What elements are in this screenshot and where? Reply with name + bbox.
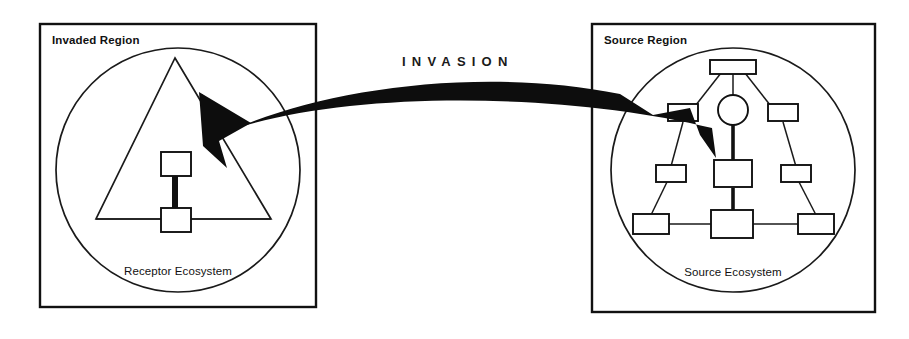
invasion-caption: INVASION — [402, 54, 513, 69]
source-node-bottom-center — [711, 210, 753, 238]
source-node-mid-left — [656, 165, 686, 182]
invaded-region-panel: Invaded Region Receptor Ecosystem — [40, 24, 316, 307]
source-node-upper-right — [768, 104, 798, 121]
receptor-node-lower — [161, 208, 191, 232]
source-ecosystem-label: Source Ecosystem — [684, 266, 781, 278]
figure-canvas: Invaded Region Receptor Ecosystem Source… — [0, 0, 909, 339]
source-node-bottom-left — [633, 214, 669, 234]
invasion-diagram: Invaded Region Receptor Ecosystem Source… — [0, 0, 909, 339]
receptor-node-upper — [161, 152, 191, 176]
receptor-ecosystem-label: Receptor Ecosystem — [124, 265, 232, 277]
source-node-mid-right — [781, 165, 811, 182]
source-node-apex — [710, 60, 756, 74]
source-region-panel: Source Region — [592, 24, 875, 312]
invaded-region-label: Invaded Region — [52, 34, 140, 46]
source-region-label: Source Region — [604, 34, 687, 46]
source-node-center — [714, 160, 752, 187]
source-node-hub-circle — [718, 95, 748, 125]
source-node-bottom-right — [798, 214, 834, 234]
